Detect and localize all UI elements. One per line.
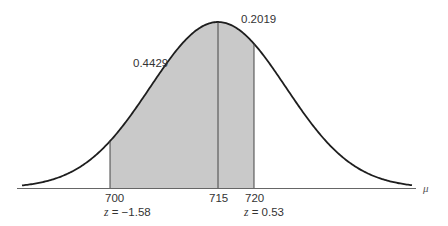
tick-label-715: 715 — [209, 192, 228, 205]
area-label-right: 0.2019 — [241, 13, 276, 26]
z-value-720: = 0.53 — [248, 206, 284, 218]
tick-label-700: 700 — [105, 192, 124, 205]
shaded-area-715-720 — [218, 22, 254, 188]
shaded-area-700-715 — [110, 22, 218, 188]
z-value-700: = −1.58 — [108, 206, 150, 218]
area-label-left: 0.4429 — [133, 57, 168, 70]
axis-label-mu: μ — [423, 182, 429, 195]
tick-label-720: 720 — [245, 192, 264, 205]
z-label-720: z = 0.53 — [244, 206, 284, 219]
z-label-700: z = −1.58 — [104, 206, 151, 219]
